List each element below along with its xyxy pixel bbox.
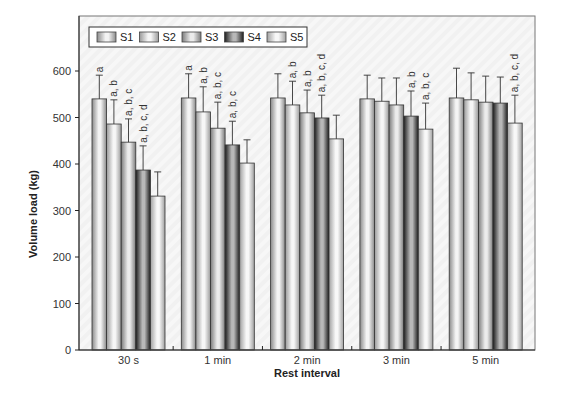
x-tick-label: 2 min	[294, 354, 321, 366]
significance-label: a, b	[108, 80, 119, 97]
legend-swatch	[182, 32, 201, 42]
y-tick-label: 200	[53, 251, 71, 263]
legend-swatch	[225, 32, 244, 42]
y-axis-title: Volume load (kg)	[27, 170, 39, 258]
significance-label: a, b, c, d	[509, 54, 520, 92]
significance-label: a, b, c, d	[316, 54, 327, 92]
bar	[271, 98, 286, 350]
y-tick-label: 500	[53, 112, 71, 124]
bar	[508, 123, 523, 350]
legend-items: S1S2S3S4S5	[97, 31, 303, 43]
significance-label: a, b	[406, 71, 417, 88]
bar	[478, 102, 493, 350]
bar	[314, 118, 329, 350]
legend: S1S2S3S4S5	[89, 27, 307, 47]
bar	[493, 103, 508, 350]
bar	[107, 124, 122, 350]
bar	[121, 142, 136, 350]
bar	[360, 99, 375, 350]
bar	[329, 139, 344, 350]
significance-label: a, b, c, d	[138, 105, 149, 143]
bar	[181, 98, 196, 350]
legend-item: S3	[182, 31, 218, 43]
bar	[404, 116, 419, 350]
bar	[449, 98, 464, 350]
legend-item: S1	[97, 31, 133, 43]
y-tick-label: 100	[53, 298, 71, 310]
significance-label: a, b, c	[212, 72, 223, 99]
significance-label: a	[183, 65, 194, 71]
bar	[211, 128, 226, 350]
x-tick-label: 5 min	[472, 354, 499, 366]
legend-label: S2	[163, 31, 176, 43]
x-axis-title: Rest interval	[274, 367, 340, 379]
bar	[375, 101, 390, 350]
bar	[300, 113, 315, 350]
bar-group	[449, 98, 522, 350]
bar	[225, 145, 240, 350]
significance-label: a, b	[198, 67, 209, 84]
y-tick-label: 300	[53, 205, 71, 217]
y-tick-label: 600	[53, 65, 71, 77]
significance-label: a	[94, 66, 105, 72]
significance-label: a, b, c	[420, 73, 431, 100]
legend-item: S4	[225, 31, 261, 43]
x-tick-label: 1 min	[204, 354, 231, 366]
bar	[285, 105, 300, 350]
bar	[92, 99, 107, 350]
significance-label: a, b, c	[123, 89, 134, 116]
x-tick-label: 3 min	[383, 354, 410, 366]
legend-swatch	[97, 32, 116, 42]
y-tick-label: 0	[65, 344, 71, 356]
significance-label: a, b	[302, 70, 313, 87]
bar	[240, 163, 255, 350]
legend-swatch	[267, 32, 286, 42]
significance-label: a, b	[287, 61, 298, 78]
x-tick-label: 30 s	[118, 354, 139, 366]
y-tick-label: 400	[53, 158, 71, 170]
bar	[136, 170, 151, 350]
legend-label: S1	[120, 31, 133, 43]
legend-item: S2	[140, 31, 176, 43]
legend-label: S4	[248, 31, 261, 43]
bar	[418, 129, 433, 350]
significance-label: a, b, c	[227, 91, 238, 118]
y-axis-ticks: 0100200300400500600	[53, 65, 79, 356]
legend-swatch	[140, 32, 159, 42]
legend-label: S5	[290, 31, 303, 43]
legend-label: S3	[205, 31, 218, 43]
legend-item: S5	[267, 31, 303, 43]
bar-group	[360, 99, 433, 350]
bar	[150, 196, 165, 350]
bar	[464, 100, 479, 350]
bar-chart: aa, ba, b, ca, b, c, daa, ba, b, ca, b, …	[0, 0, 564, 397]
bar	[389, 105, 404, 350]
bar	[196, 112, 211, 350]
